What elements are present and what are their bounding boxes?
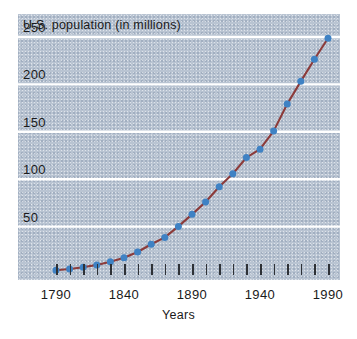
x-tick-mark	[314, 264, 316, 275]
gridlines	[18, 37, 340, 227]
data-point	[243, 154, 250, 161]
population-markers	[53, 35, 332, 274]
y-tick-label: 200	[23, 67, 46, 82]
data-point	[284, 101, 291, 108]
data-point	[121, 254, 128, 261]
x-tick-mark	[287, 264, 289, 275]
data-point	[297, 78, 304, 85]
x-tick-mark	[192, 264, 194, 275]
x-tick-mark	[151, 264, 153, 275]
x-tick-mark	[328, 264, 330, 275]
x-tick-mark	[274, 264, 276, 275]
x-tick-mark	[56, 264, 58, 275]
data-point	[229, 170, 236, 177]
chart-figure: U.S. population (in millions) 5010015020…	[0, 0, 357, 339]
x-tick-mark	[110, 264, 112, 275]
x-tick-mark	[97, 264, 99, 275]
x-tick-mark	[178, 264, 180, 275]
x-tick-mark	[206, 264, 208, 275]
x-tick-mark	[138, 264, 140, 275]
x-tick-mark	[83, 264, 85, 275]
y-tick-label: 50	[23, 210, 38, 225]
x-tick-mark	[124, 264, 126, 275]
data-point	[175, 223, 182, 230]
x-tick-mark	[165, 264, 167, 275]
x-tick-label: 1840	[94, 287, 154, 302]
x-tick-mark	[219, 264, 221, 275]
data-point	[148, 241, 155, 248]
x-tick-label: 1940	[230, 287, 290, 302]
data-point	[270, 128, 277, 135]
population-line	[56, 38, 328, 270]
data-point	[257, 146, 264, 153]
x-tick-label: 1990	[298, 287, 357, 302]
y-tick-label: 100	[23, 162, 46, 177]
plot-svg	[18, 14, 340, 280]
data-point	[189, 211, 196, 218]
plot-panel	[18, 14, 340, 280]
x-tick-mark	[301, 264, 303, 275]
data-point	[202, 198, 209, 205]
x-tick-mark	[260, 264, 262, 275]
x-tick-mark	[70, 264, 72, 275]
data-point	[325, 35, 332, 42]
y-tick-label: 250	[23, 20, 46, 35]
x-tick-mark	[246, 264, 248, 275]
data-point	[311, 56, 318, 63]
x-tick-label: 1790	[26, 287, 86, 302]
x-axis-title: Years	[0, 308, 357, 322]
x-tick-label: 1890	[162, 287, 222, 302]
data-point	[161, 234, 168, 241]
x-tick-mark	[233, 264, 235, 275]
chart-title: U.S. population (in millions)	[23, 18, 181, 32]
data-point	[216, 183, 223, 190]
data-point	[134, 249, 141, 256]
y-tick-label: 150	[23, 115, 46, 130]
